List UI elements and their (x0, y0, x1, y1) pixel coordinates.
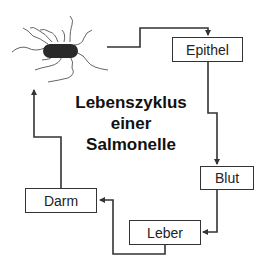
salmonella-bacterium-icon (12, 16, 108, 82)
arrow-epithel-to-blut (208, 62, 217, 164)
salmonella-lifecycle-diagram: Lebenszyklus einer Salmonelle Epithel Bl… (0, 0, 265, 267)
arrow-blut-to-leber (203, 190, 217, 232)
stage-blut-box: Blut (200, 166, 254, 190)
stage-leber-box: Leber (129, 220, 201, 245)
diagram-title: Lebenszyklus einer Salmonelle (62, 92, 200, 155)
stage-epithel-box: Epithel (172, 37, 243, 62)
title-line-2: einer (62, 113, 200, 134)
arrow-darm-to-bacterium (34, 90, 61, 188)
stage-leber-label: Leber (147, 225, 183, 241)
stage-blut-label: Blut (215, 170, 239, 186)
title-line-1: Lebenszyklus (62, 92, 200, 113)
stage-epithel-label: Epithel (186, 42, 229, 58)
stage-darm-label: Darm (44, 193, 78, 209)
stage-darm-box: Darm (25, 188, 97, 213)
title-line-3: Salmonelle (62, 134, 200, 155)
